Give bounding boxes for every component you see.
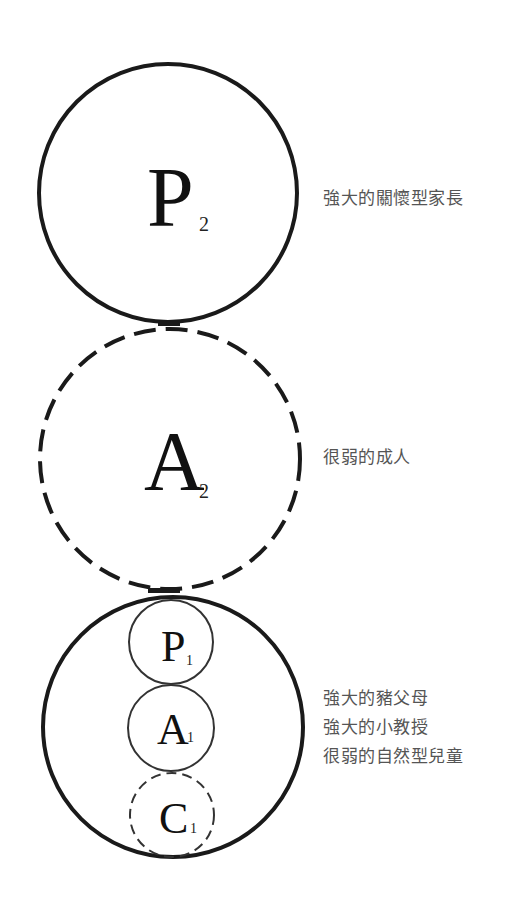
adult2-subscript: 2 xyxy=(199,480,209,502)
child2-label: 強大的豬父母 強大的小教授 很弱的自然型兒童 xyxy=(323,684,463,771)
child2-label-line-3: 很弱的自然型兒童 xyxy=(323,742,463,771)
parent2-letter: P xyxy=(147,151,194,244)
child2-label-line-2: 強大的小教授 xyxy=(323,713,463,742)
adult2-label: 很弱的成人 xyxy=(323,443,411,472)
adult2-letter: A xyxy=(144,415,205,508)
adult1-letter: A xyxy=(157,705,189,754)
adult1-subscript: 1 xyxy=(187,730,194,745)
parent2-circle-group: P 2 xyxy=(39,64,297,322)
child1-letter: C xyxy=(159,794,188,843)
parent2-label: 強大的關懷型家長 xyxy=(323,184,463,213)
parent2-label-text: 強大的關懷型家長 xyxy=(323,184,463,213)
child2-circle-group: P 1 A 1 C 1 xyxy=(43,597,303,857)
parent2-subscript: 2 xyxy=(199,213,209,235)
parent1-subscript: 1 xyxy=(186,653,193,668)
child2-label-line-1: 強大的豬父母 xyxy=(323,684,463,713)
junction-mark-bottom xyxy=(148,588,180,593)
adult2-circle-group: A 2 xyxy=(40,329,300,589)
adult2-label-text: 很弱的成人 xyxy=(323,443,411,472)
child1-subscript: 1 xyxy=(190,821,197,836)
parent1-letter: P xyxy=(161,622,185,671)
junction-mark-top xyxy=(158,321,180,326)
